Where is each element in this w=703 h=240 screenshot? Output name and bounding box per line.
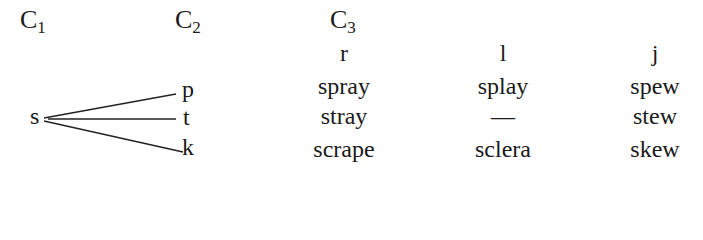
c2-value-k: k [182, 135, 194, 159]
c2-value-p: p [182, 77, 194, 101]
branch-line-p [44, 94, 176, 118]
cell-k-j: skew [630, 137, 679, 161]
cell-k-r: scrape [313, 137, 374, 161]
cell-p-j: spew [630, 74, 679, 98]
cell-k-l: sclera [475, 137, 531, 161]
cell-t-r: stray [321, 104, 368, 128]
cell-t-l: — [491, 104, 515, 128]
cell-p-r: spray [318, 74, 370, 98]
c2-value-t: t [183, 105, 190, 129]
branch-line-k [44, 121, 183, 152]
cell-p-l: splay [478, 74, 529, 98]
c1-value-s: s [30, 104, 39, 128]
cell-t-j: stew [633, 104, 677, 128]
